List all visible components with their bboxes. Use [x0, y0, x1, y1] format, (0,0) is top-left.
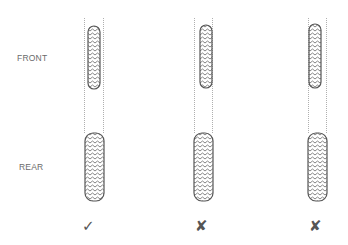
- front-tire-icon: [88, 26, 100, 89]
- rear-tire-icon: [194, 133, 213, 201]
- tire-diagram-graphic: [0, 0, 348, 245]
- column-offset-right: [194, 18, 213, 201]
- cross-icon: ✘: [195, 219, 208, 234]
- column-offset-left: [308, 18, 327, 201]
- front-tire-icon: [309, 24, 321, 88]
- rear-tire-icon: [85, 133, 104, 201]
- cross-icon: ✘: [309, 219, 322, 234]
- check-icon: ✓: [82, 219, 95, 234]
- rear-tire-icon: [308, 133, 327, 201]
- front-tire-icon: [200, 25, 212, 88]
- column-aligned: [85, 18, 105, 201]
